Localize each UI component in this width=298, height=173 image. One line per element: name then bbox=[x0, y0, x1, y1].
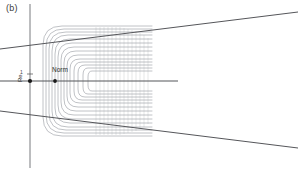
figure-canvas bbox=[0, 0, 298, 173]
norm-marker bbox=[53, 79, 57, 83]
axis-name-label: Re bbox=[17, 74, 23, 82]
upper-wedge-line bbox=[0, 12, 298, 49]
lower-wedge-line bbox=[0, 111, 298, 148]
origin-marker bbox=[28, 79, 32, 83]
panel-label: (b) bbox=[6, 3, 18, 13]
figure-panel-b: (b) Norm 1 Re bbox=[0, 0, 298, 173]
norm-label: Norm bbox=[52, 66, 68, 73]
